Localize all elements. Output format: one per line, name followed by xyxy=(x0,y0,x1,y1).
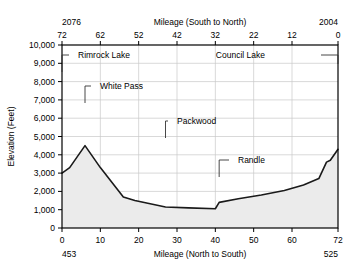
y-axis-tick-label: 0 xyxy=(50,223,55,233)
bottom-axis-tick-label: 10 xyxy=(96,235,106,245)
y-axis-tick-label: 3,000 xyxy=(34,168,56,178)
bottom-axis-title: Mileage (North to South) xyxy=(154,249,247,259)
y-axis-tick-label: 7,000 xyxy=(34,95,56,105)
top-axis: 726252423222120Mileage (South to North)2… xyxy=(57,17,340,45)
top-axis-tick-label: 72 xyxy=(57,30,67,40)
annotation-label: Rimrock Lake xyxy=(78,50,130,60)
y-axis-tick-label: 5,000 xyxy=(34,132,56,142)
elevation-profile-chart: Rimrock LakeWhite PassPackwoodRandleCoun… xyxy=(0,0,351,270)
bottom-milepost-right: 525 xyxy=(324,249,338,259)
top-axis-tick-label: 32 xyxy=(211,30,221,40)
top-milepost-left: 2076 xyxy=(62,17,81,27)
y-axis-tick-label: 6,000 xyxy=(34,113,56,123)
bottom-axis-tick-label: 40 xyxy=(211,235,221,245)
y-axis-tick-label: 1,000 xyxy=(34,205,56,215)
y-axis-tick-label: 4,000 xyxy=(34,150,56,160)
y-axis-title: Elevation (Feet) xyxy=(6,106,16,166)
bottom-axis: 010203040506072Mileage (North to South)4… xyxy=(60,228,343,259)
bottom-axis-tick-label: 60 xyxy=(287,235,297,245)
bottom-axis-tick-label: 0 xyxy=(60,235,65,245)
y-axis-tick-label: 2,000 xyxy=(34,186,56,196)
annotation-label: Council Lake xyxy=(216,50,265,60)
annotation-label: Packwood xyxy=(177,116,216,126)
bottom-axis-tick-label: 50 xyxy=(249,235,259,245)
bottom-axis-tick-label: 30 xyxy=(172,235,182,245)
y-axis-tick-label: 9,000 xyxy=(34,58,56,68)
top-axis-tick-label: 12 xyxy=(287,30,297,40)
top-axis-tick-label: 0 xyxy=(336,30,341,40)
y-axis-tick-label: 10,000 xyxy=(29,40,55,50)
top-milepost-right: 2004 xyxy=(319,17,338,27)
top-axis-title: Mileage (South to North) xyxy=(154,17,247,27)
top-axis-tick-label: 22 xyxy=(249,30,259,40)
annotation-label: White Pass xyxy=(100,81,143,91)
top-axis-tick-label: 42 xyxy=(172,30,182,40)
y-axis: 01,0002,0003,0004,0005,0006,0007,0008,00… xyxy=(6,40,62,233)
bottom-axis-tick-label: 72 xyxy=(333,235,343,245)
bottom-axis-tick-label: 20 xyxy=(134,235,144,245)
annotation-label: Randle xyxy=(238,155,265,165)
top-axis-tick-label: 52 xyxy=(134,30,144,40)
top-axis-tick-label: 62 xyxy=(96,30,106,40)
y-axis-tick-label: 8,000 xyxy=(34,77,56,87)
bottom-milepost-left: 453 xyxy=(62,249,76,259)
